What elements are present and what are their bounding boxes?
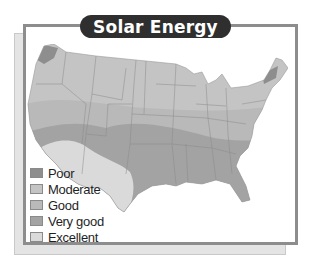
legend-swatch-moderate (30, 184, 43, 194)
title-banner: Solar Energy (80, 15, 231, 38)
legend-label-good: Good (48, 198, 79, 213)
legend: Poor Moderate Good Very good Excellent (30, 165, 104, 245)
legend-item-poor: Poor (30, 165, 104, 181)
legend-label-poor: Poor (48, 166, 74, 181)
legend-label-very-good: Very good (48, 214, 104, 229)
legend-swatch-very-good (30, 216, 43, 226)
legend-swatch-good (30, 200, 43, 210)
legend-label-moderate: Moderate (48, 182, 101, 197)
legend-swatch-excellent (30, 232, 43, 242)
legend-item-very-good: Very good (30, 213, 104, 229)
legend-label-excellent: Excellent (48, 230, 98, 245)
legend-item-excellent: Excellent (30, 229, 104, 245)
legend-item-moderate: Moderate (30, 181, 104, 197)
legend-item-good: Good (30, 197, 104, 213)
map-title: Solar Energy (93, 17, 218, 37)
legend-swatch-poor (30, 168, 43, 178)
